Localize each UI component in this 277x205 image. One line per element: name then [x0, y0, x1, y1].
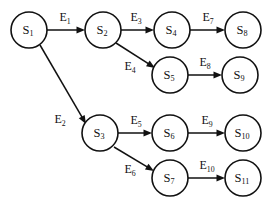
node-s2[interactable]: S2	[85, 12, 121, 48]
node-label-subscript: 6	[170, 132, 174, 141]
edge-e4	[116, 43, 155, 68]
arrow-head-icon	[217, 175, 226, 182]
node-s6[interactable]: S6	[152, 115, 188, 151]
arrow-head-icon	[77, 27, 86, 34]
edge-label-e8: E8	[199, 55, 210, 71]
edge-e1	[47, 27, 85, 34]
edge-label-subscript: 3	[138, 17, 142, 26]
node-label-base: S	[165, 23, 172, 37]
node-label-base: S	[236, 23, 243, 37]
nodes-layer: S1S2S4S8S5S9S3S6S10S7S11	[11, 12, 261, 196]
edge-label-e10: E10	[199, 158, 214, 174]
node-label-base: S	[233, 68, 240, 82]
node-s11[interactable]: S11	[225, 160, 261, 196]
edge-label-subscript: 7	[210, 17, 214, 26]
node-s9[interactable]: S9	[222, 57, 258, 93]
edge-label-e1: E1	[59, 10, 70, 26]
edge-label-subscript: 1	[67, 17, 71, 26]
edge-label-e5: E5	[130, 113, 141, 129]
node-label-subscript: 7	[170, 177, 174, 186]
node-label-subscript: 10	[241, 132, 249, 141]
edge-e3	[121, 27, 154, 34]
edge-label-base: E	[201, 113, 208, 127]
edge-e2	[40, 45, 86, 124]
node-label-subscript: 5	[170, 74, 174, 83]
node-label-base: S	[163, 171, 170, 185]
edges-layer	[40, 27, 225, 182]
edge-shaft	[40, 45, 82, 118]
edge-label-subscript: 6	[132, 169, 136, 178]
edge-label-base: E	[124, 59, 131, 73]
edge-e9	[188, 130, 225, 137]
arrow-head-icon	[146, 27, 155, 34]
arrow-head-icon	[214, 72, 223, 79]
node-label-base: S	[22, 23, 29, 37]
node-label-subscript: 1	[29, 29, 33, 38]
edge-e6	[114, 147, 154, 171]
edge-label-subscript: 4	[132, 66, 136, 75]
edge-labels-layer: E1E2E3E4E5E6E7E8E9E10	[54, 10, 214, 178]
node-label-subscript: 8	[243, 29, 247, 38]
node-s5[interactable]: S5	[152, 57, 188, 93]
edge-label-subscript: 5	[138, 120, 142, 129]
edge-label-subscript: 9	[209, 120, 213, 129]
edge-e7	[190, 27, 225, 34]
node-s4[interactable]: S4	[154, 12, 190, 48]
node-label-base: S	[163, 68, 170, 82]
arrow-head-icon	[144, 130, 153, 137]
edge-e8	[188, 72, 222, 79]
node-label-subscript: 4	[172, 29, 176, 38]
node-label-base: S	[235, 171, 242, 185]
arrow-head-icon	[145, 164, 154, 171]
node-label-base: S	[163, 126, 170, 140]
edge-label-base: E	[199, 158, 206, 172]
edge-label-e6: E6	[124, 162, 135, 178]
edge-label-e3: E3	[130, 10, 141, 26]
edge-label-base: E	[59, 10, 66, 24]
node-label-base: S	[93, 126, 100, 140]
node-label-base: S	[234, 126, 241, 140]
node-label-subscript: 2	[103, 29, 107, 38]
edge-label-base: E	[202, 10, 209, 24]
edge-label-subscript: 8	[207, 62, 211, 71]
edge-e10	[188, 175, 225, 182]
node-s8[interactable]: S8	[225, 12, 261, 48]
node-s1[interactable]: S1	[11, 12, 47, 48]
state-transition-graph: S1S2S4S8S5S9S3S6S10S7S11 E1E2E3E4E5E6E7E…	[0, 0, 277, 205]
edge-label-base: E	[124, 162, 131, 176]
node-label-base: S	[96, 23, 103, 37]
node-label-subscript: 11	[242, 177, 250, 186]
edge-label-e4: E4	[124, 59, 135, 75]
edge-label-subscript: 2	[62, 119, 66, 128]
edge-label-base: E	[130, 10, 137, 24]
node-s3[interactable]: S3	[82, 115, 118, 151]
edge-label-e9: E9	[201, 113, 212, 129]
edge-label-base: E	[54, 112, 61, 126]
arrow-head-icon	[217, 27, 226, 34]
diagram-canvas: S1S2S4S8S5S9S3S6S10S7S11 E1E2E3E4E5E6E7E…	[0, 0, 277, 205]
edge-shaft	[116, 43, 149, 64]
edge-label-base: E	[199, 55, 206, 69]
arrow-head-icon	[217, 130, 226, 137]
edge-e5	[118, 130, 152, 137]
node-label-subscript: 9	[240, 74, 244, 83]
edge-label-base: E	[130, 113, 137, 127]
edge-label-e2: E2	[54, 112, 65, 128]
node-label-subscript: 3	[100, 132, 104, 141]
node-s7[interactable]: S7	[152, 160, 188, 196]
edge-label-e7: E7	[202, 10, 213, 26]
node-s10[interactable]: S10	[225, 115, 261, 151]
edge-label-subscript: 10	[207, 165, 215, 174]
